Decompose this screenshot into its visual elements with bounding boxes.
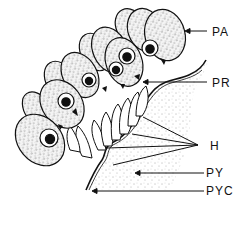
label-py: PY [206,167,224,179]
label-h: H [210,140,220,152]
label-pyc: PYC [206,185,234,197]
label-pa: PA [212,26,229,38]
label-pr: PR [212,77,231,89]
